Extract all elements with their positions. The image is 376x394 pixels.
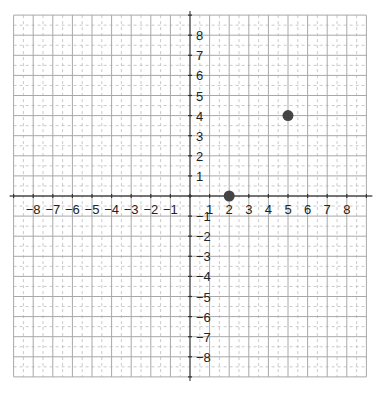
y-tick-label: 7 — [196, 48, 203, 63]
y-tick-label: 8 — [196, 28, 203, 43]
x-tick-label: −1 — [163, 202, 178, 217]
x-tick-label: −8 — [26, 202, 41, 217]
x-tick-label: −3 — [124, 202, 139, 217]
x-tick-label: 8 — [343, 202, 350, 217]
y-tick-label: 3 — [196, 129, 203, 144]
y-tick-label: −8 — [196, 350, 211, 365]
x-tick-label: 6 — [304, 202, 311, 217]
y-tick-label: 6 — [196, 68, 203, 83]
y-tick-label: −1 — [196, 209, 211, 224]
x-tick-label: 5 — [284, 202, 291, 217]
x-tick-label: 3 — [245, 202, 252, 217]
axes — [10, 11, 373, 381]
y-tick-label: −7 — [196, 330, 211, 345]
y-tick-label: 1 — [196, 169, 203, 184]
data-point — [224, 191, 235, 202]
x-tick-label: −6 — [65, 202, 80, 217]
y-tick-label: −3 — [196, 249, 211, 264]
y-tick-label: 4 — [196, 109, 203, 124]
x-tick-label: −4 — [104, 202, 119, 217]
coordinate-plane: −8−7−6−5−4−3−2−112345678 87654321−1−2−3−… — [0, 0, 376, 394]
x-tick-label: 4 — [265, 202, 272, 217]
x-tick-label: −2 — [143, 202, 158, 217]
data-point — [283, 110, 294, 121]
y-tick-label: −4 — [196, 269, 211, 284]
x-axis-labels: −8−7−6−5−4−3−2−112345678 — [26, 202, 351, 217]
y-tick-label: 2 — [196, 149, 203, 164]
y-tick-label: −2 — [196, 229, 211, 244]
x-tick-label: 7 — [324, 202, 331, 217]
y-tick-label: 5 — [196, 89, 203, 104]
y-tick-label: −5 — [196, 290, 211, 305]
x-tick-label: 2 — [226, 202, 233, 217]
y-tick-label: −6 — [196, 310, 211, 325]
x-tick-label: −7 — [45, 202, 60, 217]
x-tick-label: −5 — [85, 202, 100, 217]
